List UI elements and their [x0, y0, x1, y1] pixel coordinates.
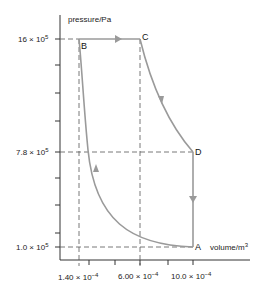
x-axis-title: volume/m3 — [210, 242, 249, 252]
point-label-c: C — [142, 32, 149, 42]
point-label-a: A — [195, 242, 201, 252]
arrow-right-icon — [115, 35, 122, 43]
x-tick-label-10-0: 10.0 × 10−4 — [171, 271, 212, 281]
pv-diagram: B C D A pressure/Pa volume/m3 16 × 105 7… — [0, 0, 264, 296]
y-tick-label-16: 16 × 105 — [18, 34, 49, 44]
x-ticks — [89, 260, 193, 265]
x-tick-label-1-40: 1.40 × 10−4 — [58, 272, 99, 282]
y-tick-label-7-8: 7.8 × 105 — [16, 147, 49, 157]
x-tick-label-6-00: 6.00 × 10−4 — [118, 271, 159, 281]
path-ab — [79, 39, 193, 247]
cycle-path — [79, 39, 193, 247]
path-cd — [140, 39, 193, 152]
y-ticks — [55, 39, 60, 247]
y-axis-title: pressure/Pa — [68, 15, 112, 24]
axes — [60, 15, 250, 260]
point-label-b: B — [81, 41, 87, 51]
point-label-d: D — [195, 147, 202, 157]
arrow-up-icon — [93, 164, 99, 172]
dashed-guides — [60, 39, 193, 266]
arrow-down-icon — [189, 196, 197, 203]
y-tick-label-1-0: 1.0 × 105 — [16, 242, 49, 252]
